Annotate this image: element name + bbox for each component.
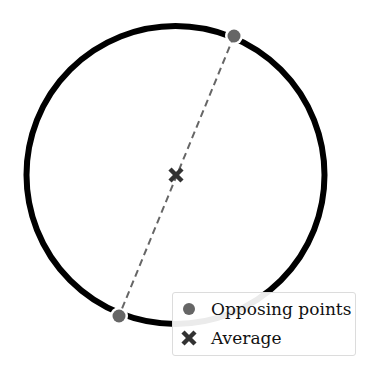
circle-marker-icon (179, 299, 199, 319)
legend: Opposing points Average (172, 292, 356, 356)
legend-item-opposing-points: Opposing points (173, 297, 351, 321)
opposing-point-top (228, 30, 241, 43)
opposing-point-bottom (113, 310, 126, 323)
x-marker-icon (179, 328, 199, 348)
legend-item-average: Average (173, 326, 281, 350)
legend-label: Average (211, 328, 281, 348)
legend-label: Opposing points (211, 299, 351, 319)
